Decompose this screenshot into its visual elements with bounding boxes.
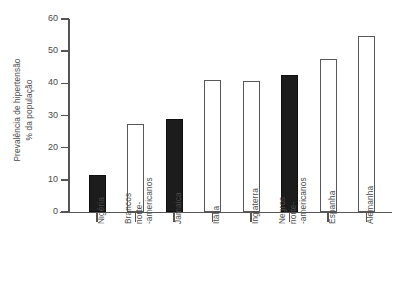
y-tick-label: 10 xyxy=(30,175,58,184)
y-tick-label: 0 xyxy=(30,207,58,216)
plot-area xyxy=(68,19,386,212)
x-tick-label: Espanha xyxy=(327,191,338,224)
y-tick-label: 50 xyxy=(30,46,58,55)
x-tick-label: Itália xyxy=(211,206,222,224)
x-tick-label: Inglaterra xyxy=(250,188,261,224)
bar-itália xyxy=(204,80,221,212)
x-tick-label: Nigéria xyxy=(96,197,107,224)
x-tick-label: Alemanha xyxy=(365,186,376,224)
y-tick-label: 20 xyxy=(30,143,58,152)
y-tick-label: 60 xyxy=(30,14,58,23)
y-tick-label: 30 xyxy=(30,111,58,120)
bar-espanha xyxy=(320,59,337,212)
x-tick-label: Brancos norte- -americanos xyxy=(123,177,155,224)
y-tick-label: 40 xyxy=(30,78,58,87)
x-tick-label: Negros norte- -americanos xyxy=(277,177,309,224)
x-tick-label: Jamaica xyxy=(173,192,184,224)
hypertension-prevalence-bar-chart: Prevalência de hipertensão % da populaçã… xyxy=(0,0,402,305)
